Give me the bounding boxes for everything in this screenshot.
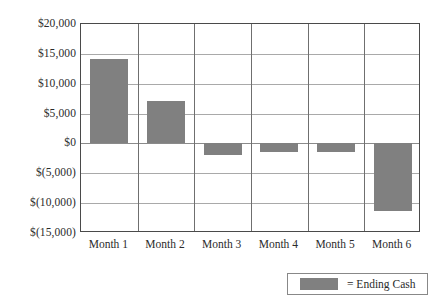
plot-area	[80, 23, 420, 232]
legend-swatch-ending-cash	[300, 278, 338, 290]
legend: = Ending Cash	[287, 273, 428, 295]
x-axis-tick-label: Month 4	[250, 236, 307, 254]
y-axis-tick-label: $(10,000)	[2, 196, 76, 208]
bar	[260, 143, 298, 152]
x-axis-tick-label: Month 2	[137, 236, 194, 254]
bar	[374, 143, 412, 210]
y-axis-tick-label: $(5,000)	[2, 166, 76, 178]
y-axis-tick-label: $(15,000)	[2, 226, 76, 238]
bar	[204, 143, 242, 155]
y-axis-tick-label: $15,000	[2, 47, 76, 59]
bar	[147, 101, 185, 143]
y-axis-tick-label: $20,000	[2, 17, 76, 29]
legend-label-ending-cash: = Ending Cash	[347, 278, 415, 291]
y-axis-tick-label: $10,000	[2, 77, 76, 89]
x-axis-tick-label: Month 1	[80, 236, 137, 254]
y-axis-tick-label: $0	[2, 136, 76, 148]
y-axis: $20,000$15,000$10,000$5,000$0$(5,000)$(1…	[0, 0, 76, 301]
x-axis: Month 1Month 2Month 3Month 4Month 5Month…	[80, 236, 420, 254]
x-axis-tick-label: Month 6	[363, 236, 420, 254]
bars-layer	[81, 24, 419, 231]
bar	[90, 59, 128, 144]
x-axis-tick-label: Month 5	[307, 236, 364, 254]
bar-chart: $20,000$15,000$10,000$5,000$0$(5,000)$(1…	[0, 0, 438, 301]
bar	[317, 143, 355, 152]
y-axis-tick-label: $5,000	[2, 107, 76, 119]
x-axis-tick-label: Month 3	[193, 236, 250, 254]
